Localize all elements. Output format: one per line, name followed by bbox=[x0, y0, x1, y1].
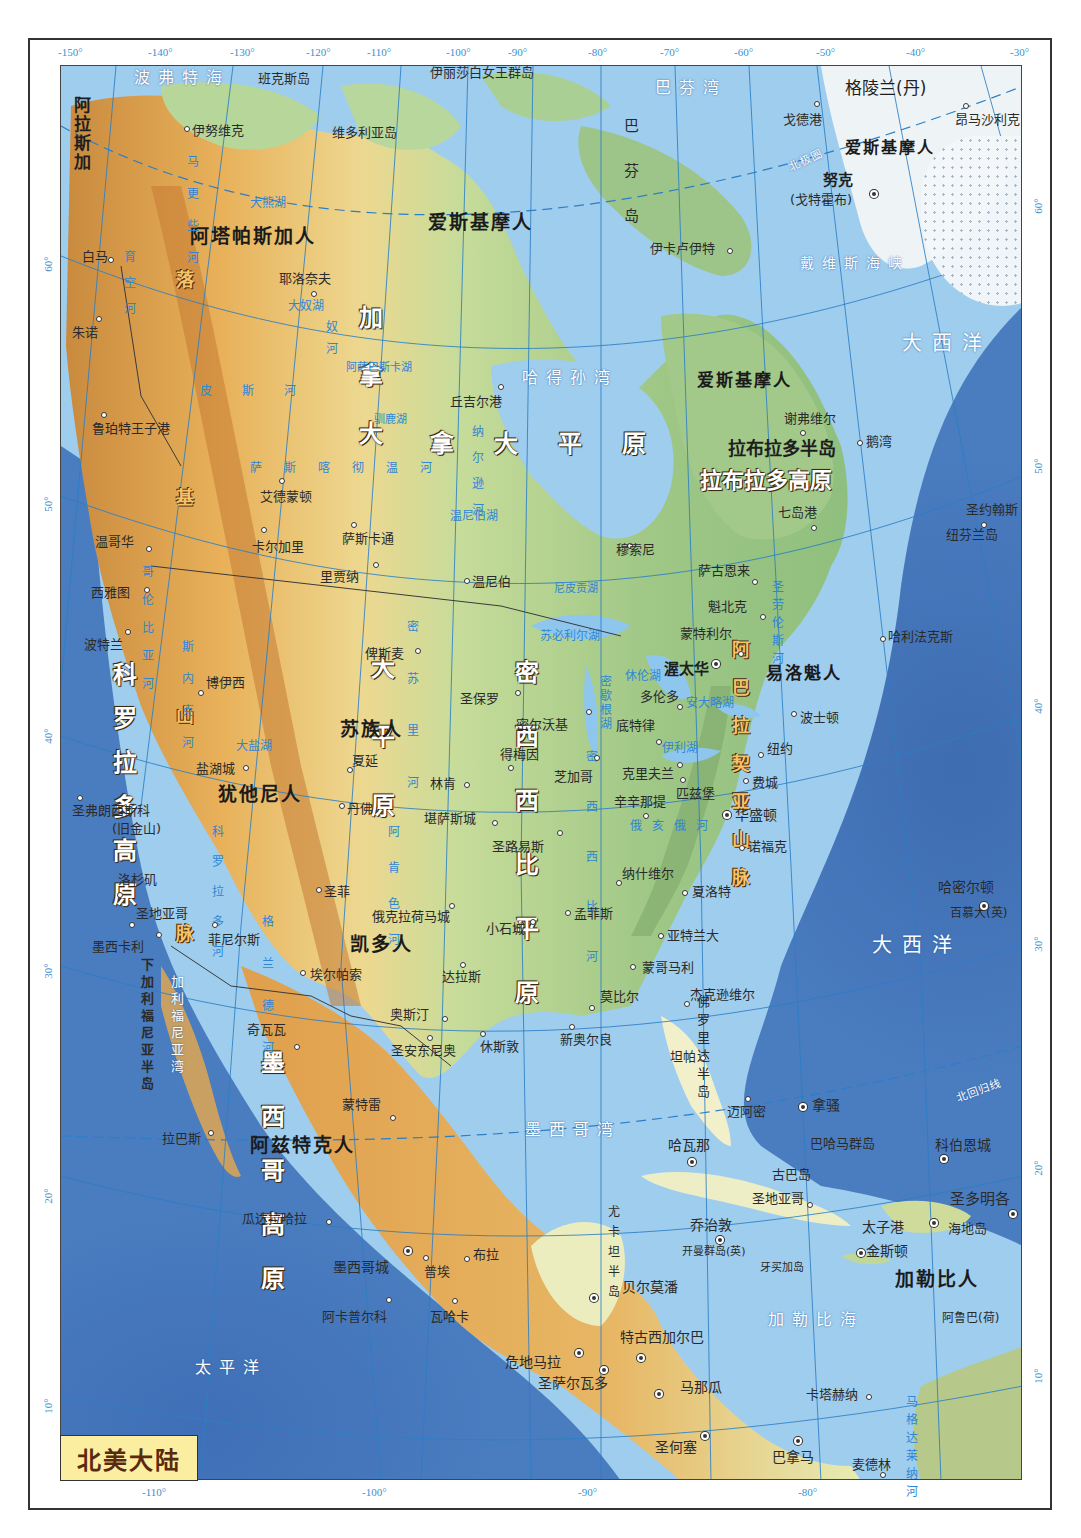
city-marker[interactable] bbox=[586, 709, 592, 715]
capital-marker[interactable] bbox=[590, 1294, 598, 1302]
city-marker[interactable] bbox=[390, 1115, 396, 1121]
capital-marker[interactable] bbox=[930, 1219, 938, 1227]
city-label[interactable]: 伊努维克 bbox=[192, 124, 244, 137]
city-label[interactable]: 哈密尔顿 bbox=[938, 880, 994, 894]
city-marker[interactable] bbox=[565, 910, 571, 916]
city-marker[interactable] bbox=[745, 1096, 751, 1102]
city-label[interactable]: 鲁珀特王子港 bbox=[92, 422, 170, 435]
city-label[interactable]: 丘吉尔港 bbox=[450, 395, 502, 408]
city-label[interactable]: 西雅图 bbox=[91, 586, 130, 599]
city-label[interactable]: 特古西加尔巴 bbox=[620, 1330, 704, 1344]
city-marker[interactable] bbox=[261, 527, 267, 533]
city-marker[interactable] bbox=[480, 1031, 486, 1037]
city-marker[interactable] bbox=[125, 629, 131, 635]
city-marker[interactable] bbox=[198, 690, 204, 696]
city-marker[interactable] bbox=[682, 890, 688, 896]
city-marker[interactable] bbox=[680, 777, 686, 783]
city-marker[interactable] bbox=[530, 919, 536, 925]
city-label[interactable]: 墨西卡利 bbox=[92, 940, 144, 953]
city-label[interactable]: 芝加哥 bbox=[554, 770, 593, 783]
capital-marker[interactable] bbox=[794, 1437, 802, 1445]
city-label[interactable]: 麦德林 bbox=[852, 1458, 891, 1471]
city-marker[interactable] bbox=[212, 922, 218, 928]
city-marker[interactable] bbox=[807, 1202, 813, 1208]
city-marker[interactable] bbox=[386, 1297, 392, 1303]
city-marker[interactable] bbox=[752, 579, 758, 585]
city-marker[interactable] bbox=[658, 933, 664, 939]
city-marker[interactable] bbox=[243, 765, 249, 771]
city-label[interactable]: 哈利法克斯 bbox=[888, 630, 953, 643]
city-marker[interactable] bbox=[326, 1219, 332, 1225]
city-marker[interactable] bbox=[452, 1298, 458, 1304]
city-label[interactable]: 金斯顿 bbox=[866, 1244, 908, 1258]
city-label[interactable]: 贝尔莫潘 bbox=[622, 1280, 678, 1294]
capital-marker[interactable] bbox=[940, 1155, 948, 1163]
city-label[interactable]: 圣安东尼奥 bbox=[391, 1044, 456, 1057]
city-label[interactable]: 林肯 bbox=[430, 777, 456, 790]
city-marker[interactable] bbox=[814, 101, 820, 107]
city-label[interactable]: 辛辛那提 bbox=[614, 795, 666, 808]
city-marker[interactable] bbox=[316, 887, 322, 893]
city-label[interactable]: 纳什维尔 bbox=[622, 867, 674, 880]
city-marker[interactable] bbox=[294, 1044, 300, 1050]
city-marker[interactable] bbox=[677, 704, 683, 710]
city-label[interactable]: 圣地亚哥 bbox=[752, 1192, 804, 1205]
city-label[interactable]: 匹兹堡 bbox=[676, 787, 715, 800]
city-marker[interactable] bbox=[791, 711, 797, 717]
city-label[interactable]: 埃尔帕索 bbox=[310, 968, 362, 981]
city-label[interactable]: 温尼伯 bbox=[472, 575, 511, 588]
capital-marker[interactable] bbox=[723, 811, 731, 819]
city-marker[interactable] bbox=[351, 522, 357, 528]
city-label[interactable]: 太子港 bbox=[862, 1220, 904, 1234]
city-marker[interactable] bbox=[880, 636, 886, 642]
city-label[interactable]: 小石城 bbox=[486, 922, 525, 935]
city-label[interactable]: 白马 bbox=[82, 250, 108, 263]
capital-marker[interactable] bbox=[857, 1249, 865, 1257]
city-label[interactable]: 普埃 bbox=[424, 1265, 450, 1278]
city-marker[interactable] bbox=[800, 430, 806, 436]
capital-marker[interactable] bbox=[799, 1103, 807, 1111]
city-label[interactable]: 底特律 bbox=[616, 719, 655, 732]
city-label[interactable]: 蒙特雷 bbox=[342, 1098, 381, 1111]
city-label[interactable]: 孟菲斯 bbox=[574, 907, 613, 920]
city-label[interactable]: 费城 bbox=[752, 776, 778, 789]
city-label[interactable]: 奇瓦瓦 bbox=[247, 1023, 286, 1036]
city-label[interactable]: 圣萨尔瓦多 bbox=[538, 1376, 608, 1390]
city-marker[interactable] bbox=[108, 257, 114, 263]
city-label[interactable]: 坦帕 bbox=[670, 1050, 696, 1063]
city-label[interactable]: 迈阿密 bbox=[727, 1105, 766, 1118]
city-marker[interactable] bbox=[129, 922, 135, 928]
city-marker[interactable] bbox=[569, 1024, 575, 1030]
capital-marker[interactable] bbox=[716, 1236, 724, 1244]
city-label[interactable]: 夏延 bbox=[352, 754, 378, 767]
city-marker[interactable] bbox=[738, 651, 744, 657]
city-label[interactable]: 丹佛 bbox=[347, 802, 373, 815]
city-marker[interactable] bbox=[630, 964, 636, 970]
city-label[interactable]: 圣地亚哥 bbox=[136, 907, 188, 920]
city-label[interactable]: 谢弗维尔 bbox=[784, 412, 836, 425]
city-label[interactable]: 穆索尼 bbox=[616, 543, 655, 556]
city-marker[interactable] bbox=[857, 440, 863, 446]
city-marker[interactable] bbox=[677, 762, 683, 768]
city-marker[interactable] bbox=[96, 316, 102, 322]
city-marker[interactable] bbox=[656, 739, 662, 745]
city-label[interactable]: 鹅湾 bbox=[866, 435, 892, 448]
city-marker[interactable] bbox=[508, 765, 514, 771]
city-label[interactable]: 俾斯麦 bbox=[365, 647, 404, 660]
city-label[interactable]: 萨古恩来 bbox=[698, 564, 750, 577]
city-label[interactable]: 艾德蒙顿 bbox=[260, 490, 312, 503]
city-marker[interactable] bbox=[589, 1005, 595, 1011]
city-label[interactable]: 哈瓦那 bbox=[668, 1138, 710, 1152]
city-label[interactable]: 七岛港 bbox=[778, 506, 817, 519]
capital-marker[interactable] bbox=[980, 902, 988, 910]
city-label[interactable]: 圣菲 bbox=[324, 885, 350, 898]
city-label[interactable]: 休斯敦 bbox=[480, 1040, 519, 1053]
city-label[interactable]: 乔治敦 bbox=[690, 1218, 732, 1232]
city-label[interactable]: 耶洛奈夫 bbox=[279, 272, 331, 285]
city-label[interactable]: 博伊西 bbox=[206, 676, 245, 689]
city-label[interactable]: 洛杉矶 bbox=[118, 873, 157, 886]
city-label[interactable]: 堪萨斯城 bbox=[424, 812, 476, 825]
city-label[interactable]: 诺福克 bbox=[748, 840, 787, 853]
city-label[interactable]: 达拉斯 bbox=[442, 970, 481, 983]
city-label[interactable]: 昂马沙利克 bbox=[955, 113, 1020, 126]
